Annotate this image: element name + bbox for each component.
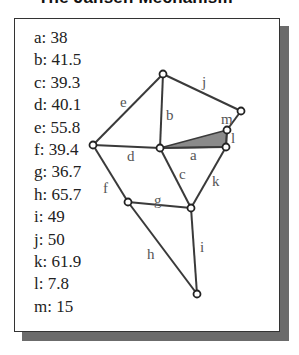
label-e: e bbox=[120, 94, 127, 110]
label-d: d bbox=[127, 148, 135, 164]
crank-triangle bbox=[160, 130, 227, 148]
link-h bbox=[128, 202, 197, 294]
label-c: c bbox=[179, 166, 186, 182]
link-c bbox=[160, 148, 191, 208]
joint-crank-tip bbox=[224, 127, 231, 134]
label-k: k bbox=[212, 173, 220, 189]
joint-center-pivot bbox=[157, 145, 164, 152]
label-m: m bbox=[221, 111, 233, 127]
link-f bbox=[93, 145, 128, 202]
label-a: a bbox=[190, 147, 197, 163]
label-h: h bbox=[147, 246, 155, 262]
joint-top bbox=[160, 71, 167, 78]
label-j: j bbox=[201, 74, 206, 90]
joint-left bbox=[90, 142, 97, 149]
label-i: i bbox=[200, 239, 204, 255]
joint-lower-left bbox=[125, 199, 132, 206]
link-i bbox=[191, 208, 197, 294]
label-g: g bbox=[154, 192, 162, 208]
joint-right bbox=[238, 108, 245, 115]
link-e bbox=[93, 74, 163, 145]
joint-foot bbox=[194, 291, 201, 298]
joint-lower-right bbox=[188, 205, 195, 212]
joint-crank-pivot bbox=[223, 144, 230, 151]
label-l: l bbox=[231, 130, 235, 146]
label-b: b bbox=[166, 107, 174, 123]
link-b bbox=[160, 74, 163, 148]
linkage-diagram: e b j m l d a c k f g h i bbox=[0, 0, 299, 355]
label-f: f bbox=[103, 180, 108, 196]
